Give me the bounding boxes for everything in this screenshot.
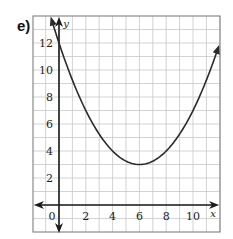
x-tick-label: 0	[49, 210, 56, 223]
x-tick-label: 2	[82, 210, 89, 223]
y-tick-label: 10	[39, 64, 53, 77]
x-axis-label: x	[210, 208, 216, 219]
curve-arrow-left-icon	[50, 17, 57, 27]
graph: 024681024681012xy	[0, 0, 233, 239]
y-tick-label: 2	[46, 172, 53, 185]
y-tick-label: 12	[39, 37, 53, 50]
y-tick-label: 6	[46, 118, 53, 131]
x-tick-label: 8	[163, 210, 170, 223]
y-tick-label: 4	[46, 145, 53, 158]
curve-arrow-right-icon	[213, 45, 220, 55]
y-tick-label: 8	[46, 91, 53, 104]
x-tick-label: 4	[109, 210, 116, 223]
x-tick-label: 10	[186, 210, 200, 223]
y-axis-label: y	[62, 18, 69, 29]
x-tick-label: 6	[136, 210, 143, 223]
